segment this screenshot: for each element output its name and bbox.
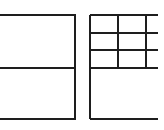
left-divided-rectangle — [0, 15, 76, 119]
right-grid-rectangle — [90, 15, 158, 119]
line-drawing — [0, 0, 164, 130]
diagram-canvas — [0, 0, 164, 130]
